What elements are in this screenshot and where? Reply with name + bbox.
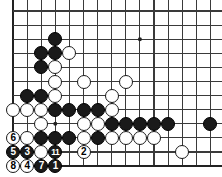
numbered-stone-white-4: 4: [20, 159, 34, 173]
stone-white: [62, 46, 76, 60]
stone-white: [91, 117, 105, 131]
stone-white: [119, 131, 133, 145]
stone-black: [105, 117, 119, 131]
stone-white: [147, 131, 161, 145]
stone-black: [133, 117, 147, 131]
numbered-stone-white-8: 8: [6, 159, 20, 173]
stone-white: [20, 103, 34, 117]
stone-white: [77, 117, 91, 131]
numbered-stone-black-5: 5: [6, 145, 20, 159]
stone-black: [91, 103, 105, 117]
stone-black: [48, 46, 62, 60]
stone-white: [6, 103, 20, 117]
stone-black: [34, 89, 48, 103]
stone-black: [119, 117, 133, 131]
stone-black: [203, 117, 217, 131]
move-number-label: 7: [39, 161, 44, 171]
stone-white: [34, 103, 48, 117]
stone-white: [48, 75, 62, 89]
move-number-label: 1: [53, 161, 58, 171]
numbered-stone-white-2: 2: [77, 145, 91, 159]
stone-black: [48, 32, 62, 46]
move-number-label: 11: [51, 148, 59, 157]
numbered-stone-black-7: 7: [34, 159, 48, 173]
go-board-diagram: 6531128471: [0, 0, 222, 177]
stone-black: [20, 89, 34, 103]
stone-white: [48, 89, 62, 103]
numbered-stone-white-6: 6: [6, 131, 20, 145]
stone-black: [62, 103, 76, 117]
stone-white: [105, 89, 119, 103]
stone-white: [34, 145, 48, 159]
numbered-stone-black-1: 1: [48, 159, 62, 173]
stone-black: [48, 103, 62, 117]
stone-white: [175, 145, 189, 159]
move-number-label: 4: [25, 161, 30, 171]
stone-black: [161, 117, 175, 131]
stone-black: [147, 117, 161, 131]
move-number-label: 6: [10, 133, 15, 143]
stone-black: [34, 46, 48, 60]
stone-white: [105, 131, 119, 145]
stone-white: [48, 60, 62, 74]
move-number-label: 2: [81, 147, 86, 157]
stone-layer: 6531128471: [0, 0, 222, 177]
numbered-stone-black-11: 11: [48, 145, 62, 159]
move-number-label: 3: [25, 147, 30, 157]
stone-black: [34, 131, 48, 145]
numbered-stone-black-3: 3: [20, 145, 34, 159]
stone-white: [105, 103, 119, 117]
stone-black: [91, 131, 105, 145]
stone-white: [34, 117, 48, 131]
stone-black: [62, 131, 76, 145]
stone-white: [77, 131, 91, 145]
stone-black: [77, 103, 91, 117]
stone-black: [48, 131, 62, 145]
stone-white: [119, 75, 133, 89]
stone-white: [20, 131, 34, 145]
stone-white: [77, 75, 91, 89]
move-number-label: 5: [10, 147, 15, 157]
stone-black: [34, 60, 48, 74]
stone-white: [133, 131, 147, 145]
move-number-label: 8: [10, 161, 15, 171]
